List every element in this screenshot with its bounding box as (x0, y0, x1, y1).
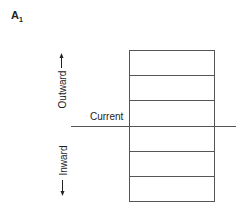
outward-label: Outward (57, 70, 68, 110)
current-label: Current (90, 111, 123, 122)
inward-label: Inward (58, 141, 69, 181)
membrane-diagram (0, 0, 252, 211)
arrow-down-icon (61, 180, 65, 196)
arrow-up-icon (60, 53, 64, 68)
